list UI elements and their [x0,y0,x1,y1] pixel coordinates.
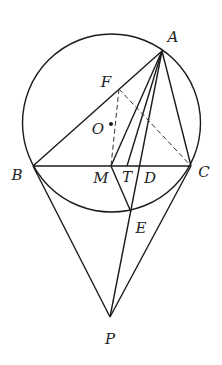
segment-cp [110,166,191,317]
label-f: F [100,73,112,91]
segment-ac [162,51,191,166]
label-b: B [10,166,22,184]
label-c: C [198,163,210,181]
label-t: T [122,168,133,186]
segment-fm [111,89,119,166]
center-point-o [109,122,113,126]
label-o: O [92,120,104,138]
geometry-diagram: A B C M T D E F O P [0,0,222,365]
label-d: D [143,169,156,187]
point-labels: A B C M T D E F O P [10,28,210,348]
solid-segments [33,51,191,317]
segment-at [127,51,162,166]
dashed-segments [111,89,191,166]
label-m: M [92,169,109,187]
label-a: A [166,28,179,46]
segment-am [111,51,162,166]
label-e: E [135,219,147,237]
segment-bp [33,166,110,317]
label-p: P [104,330,116,348]
